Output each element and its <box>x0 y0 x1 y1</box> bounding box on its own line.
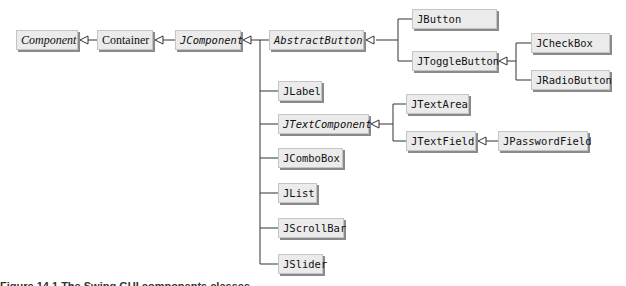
class-jcomponent: JComponent <box>175 30 241 50</box>
uml-diagram: Component Container JComponent AbstractB… <box>0 0 626 286</box>
class-jscrollbar: JScrollBar <box>278 218 344 238</box>
class-container: Container <box>97 30 153 50</box>
class-jtextarea: JTextArea <box>406 94 469 114</box>
class-jbutton: JButton <box>412 9 497 29</box>
class-component: Component <box>16 30 78 50</box>
class-jlabel: JLabel <box>278 81 322 101</box>
figure-caption: Figure 14.1 The Swing GUI components cla… <box>0 280 626 286</box>
class-jtogglebutton: JToggleButton <box>412 51 497 71</box>
class-jtextfield: JTextField <box>406 131 476 151</box>
class-jtextcomponent: JTextComponent <box>278 114 369 134</box>
class-abstractbutton: AbstractButton <box>269 30 364 50</box>
class-jradiobutton: JRadioButton <box>531 70 610 90</box>
class-jcheckbox: JCheckBox <box>531 33 610 53</box>
class-jcombobox: JComboBox <box>278 148 343 168</box>
class-jlist: JList <box>278 183 317 203</box>
class-jslider: JSlider <box>278 254 323 274</box>
class-jpasswordfield: JPasswordField <box>498 131 588 151</box>
